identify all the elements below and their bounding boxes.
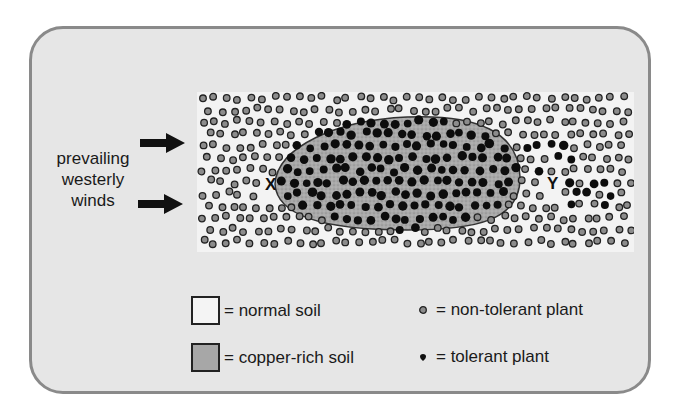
legend-copper-rich-soil: = copper-rich soil [191,343,354,372]
normal-soil-swatch-icon [191,296,220,325]
wind-label-line-2: westerly [38,169,148,190]
legend-non-tolerant-plant: = non-tolerant plant [418,300,583,320]
copper-rich-soil-swatch-icon [191,343,220,372]
marker-y: Y [547,174,559,193]
legend-tolerant-plant-label: = tolerant plant [436,347,549,367]
wind-arrow-bottom-icon [138,193,184,215]
wind-label-line-1: prevailing [38,148,148,169]
wind-arrow-top-icon [140,132,186,154]
legend-normal-soil: = normal soil [191,296,321,325]
wind-label-line-3: winds [38,190,148,211]
wind-label: prevailing westerly winds [38,148,148,211]
marker-x: X [265,175,277,194]
legend-tolerant-plant: = tolerant plant [418,347,549,367]
tolerant-plant-icon [418,352,428,362]
legend-normal-soil-label: = normal soil [224,301,321,321]
legend-copper-rich-soil-label: = copper-rich soil [224,348,354,368]
non-tolerant-plant-icon [418,305,428,315]
legend-non-tolerant-plant-label: = non-tolerant plant [436,300,583,320]
field-plot: X Y [197,92,634,252]
